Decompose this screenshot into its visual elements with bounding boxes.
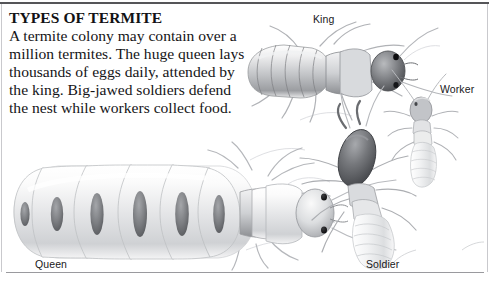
queen-termite (14, 142, 396, 270)
left-border-rule (1, 4, 2, 272)
caption-worker: Worker (440, 83, 474, 95)
bottom-divider-rule (6, 272, 484, 273)
caption-queen: Queen (35, 258, 67, 270)
caption-king: King (313, 13, 334, 25)
illustration-panel: TYPES OF TERMITE A termite colony may co… (0, 0, 489, 281)
page-title: TYPES OF TERMITE (9, 9, 249, 26)
right-border-rule (487, 4, 488, 272)
top-divider-rule (0, 2, 489, 4)
body-paragraph: A termite colony may contain over a mill… (9, 27, 247, 117)
king-termite (248, 22, 452, 122)
text-block: TYPES OF TERMITE A termite colony may co… (9, 9, 249, 117)
soldier-termite (300, 82, 416, 270)
caption-soldier: Soldier (366, 258, 399, 270)
